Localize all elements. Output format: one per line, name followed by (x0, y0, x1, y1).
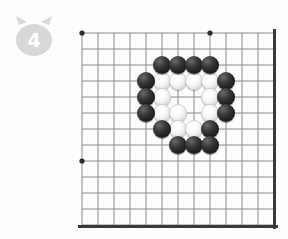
black-stone[interactable] (153, 120, 171, 138)
black-stone[interactable] (201, 136, 219, 154)
star-point (79, 158, 84, 163)
problem-number-badge: 4 (8, 12, 60, 64)
problem-number-label: 4 (8, 12, 60, 64)
go-puzzle-screen: 4 (0, 0, 288, 239)
go-board[interactable] (70, 14, 288, 239)
star-point (79, 30, 84, 35)
black-stone[interactable] (137, 104, 155, 122)
black-stone[interactable] (201, 56, 219, 74)
star-point (207, 30, 212, 35)
black-stone[interactable] (217, 104, 235, 122)
